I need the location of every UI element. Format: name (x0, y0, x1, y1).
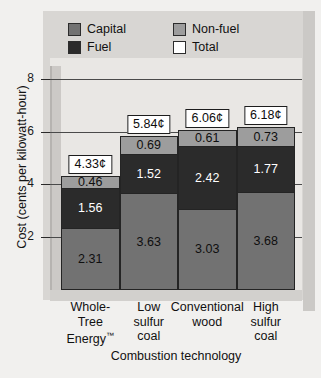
y-tick-6 (41, 132, 50, 133)
stacked-bar[interactable]: 0.461.562.31 (61, 176, 120, 290)
legend-swatch-icon (68, 41, 81, 54)
chart-root: 2468 Cost (cents per kilowatt-hour) Capi… (0, 0, 321, 378)
y-axis-title: Cost (cents per kilowatt-hour) (15, 57, 29, 277)
bar-segment-capital: 3.03 (179, 210, 236, 289)
bar-segment-nonfuel: 0.73 (238, 128, 295, 147)
bar-total-label: 6.18¢ (244, 106, 287, 125)
stacked-bar[interactable]: 0.612.423.03 (178, 130, 237, 290)
panel-right-bevel (303, 11, 315, 311)
legend-label: Capital (87, 23, 126, 36)
legend-label: Total (192, 41, 218, 54)
bar-segment-fuel: 1.77 (238, 147, 295, 193)
bar-total-label: 5.84¢ (127, 115, 170, 134)
bar-total-label: 4.33¢ (69, 155, 112, 174)
legend-item-non-fuel: Non-fuel (173, 23, 283, 36)
y-tick-8 (41, 79, 50, 80)
bar-segment-fuel: 1.56 (62, 189, 119, 229)
y-tick-4 (41, 184, 50, 185)
bar-segment-fuel: 2.42 (179, 147, 236, 210)
bar-total-label: 6.06¢ (186, 109, 229, 128)
legend-label: Non-fuel (192, 23, 239, 36)
legend-item-total: Total (173, 41, 283, 54)
bar-segment-nonfuel: 0.46 (62, 177, 119, 189)
x-axis-category-labels: Whole-TreeEnergy™LowsulfurcoalConvention… (61, 300, 295, 348)
x-axis-title: Combustion technology (50, 349, 302, 363)
legend-swatch-icon (68, 23, 81, 36)
legend-label: Fuel (87, 41, 111, 54)
y-tick-2 (41, 237, 50, 238)
legend-swatch-icon (173, 23, 186, 36)
bar-segment-capital: 2.31 (62, 229, 119, 289)
bar-segment-capital: 3.63 (121, 194, 178, 289)
legend-swatch-icon (173, 41, 186, 54)
bar-segment-nonfuel: 0.69 (121, 137, 178, 155)
chart-legend: CapitalNon-fuelFuelTotal (68, 20, 283, 56)
legend-item-fuel: Fuel (68, 41, 173, 54)
bar-segment-capital: 3.68 (238, 193, 295, 289)
stacked-bar[interactable]: 0.731.773.68 (237, 127, 296, 290)
stacked-bar[interactable]: 0.691.523.63 (120, 136, 179, 290)
bar-segment-nonfuel: 0.61 (179, 131, 236, 147)
legend-item-capital: Capital (68, 23, 173, 36)
x-axis-label: Highsulfurcoal (227, 300, 306, 344)
bar-segment-fuel: 1.52 (121, 155, 178, 195)
